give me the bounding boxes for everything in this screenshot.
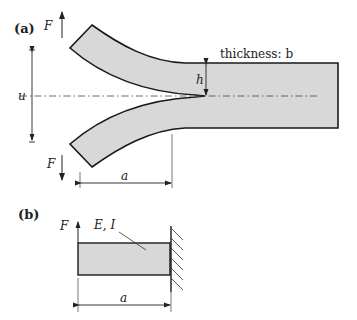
crack-length-label: a (121, 169, 128, 183)
opening-label: u (18, 89, 26, 103)
diagram-svg: (a) F F u h thickness: b a (b) (0, 0, 357, 320)
half-height-label: h (196, 73, 204, 87)
dcb-specimen-diagram: (a) F F u h thickness: b a (b) (0, 0, 357, 320)
cantilever-beam (78, 243, 170, 275)
panel-a-label: (a) (14, 21, 35, 36)
force-label-top: F (43, 19, 53, 33)
thickness-label: thickness: b (220, 47, 293, 61)
length-label: a (120, 291, 127, 305)
wall-hatch (171, 228, 183, 290)
force-label-bottom: F (46, 157, 56, 171)
panel-b-label: (b) (18, 207, 39, 222)
properties-label: E, I (93, 218, 115, 232)
panel-b: (b) F E, I a (18, 207, 183, 312)
panel-a: (a) F F u h thickness: b a (14, 12, 338, 188)
force-label: F (59, 219, 69, 233)
